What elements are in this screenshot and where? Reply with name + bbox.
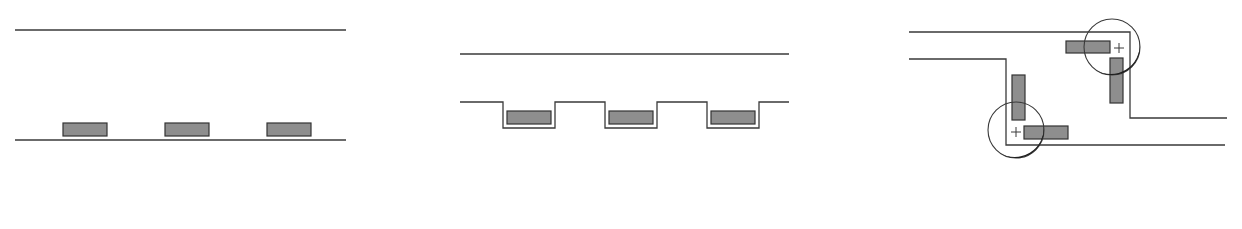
block [609, 111, 653, 124]
diagram-canvas [0, 0, 1242, 229]
block [1066, 41, 1110, 53]
block [711, 111, 755, 124]
block [267, 123, 311, 136]
block [1012, 75, 1025, 120]
cornering-channel-panel [909, 19, 1227, 158]
block [507, 111, 551, 124]
block [1110, 58, 1123, 103]
block [63, 123, 107, 136]
block [165, 123, 209, 136]
block [1024, 126, 1068, 139]
flat-channel-panel [15, 30, 346, 140]
recessed-channel-panel [460, 54, 789, 128]
